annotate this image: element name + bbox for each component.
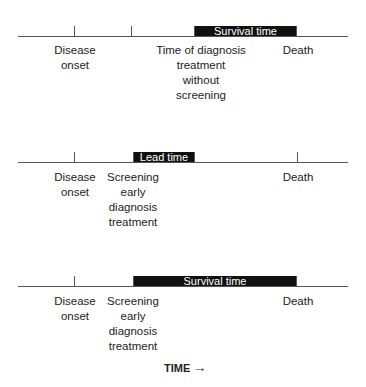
survival-time-bar: Survival time xyxy=(133,276,297,286)
lead-time-label: Lead time xyxy=(140,151,188,163)
lead-time-bar: Lead time xyxy=(133,152,195,162)
screening-label: Screening early diagnosis treatment xyxy=(104,170,162,230)
onset-tick xyxy=(74,26,75,37)
death-label: Death xyxy=(280,170,316,185)
diagnosis-label: Time of diagnosis treatment without scre… xyxy=(148,43,254,103)
death-tick xyxy=(297,152,298,163)
right-arrow-icon: → xyxy=(193,360,206,375)
disease-onset-label: Disease onset xyxy=(50,170,100,200)
survival-time-label: Survival time xyxy=(184,275,247,287)
timeline-axis xyxy=(18,36,348,37)
time-axis-label: TIME → xyxy=(164,360,206,375)
survival-time-label: Survival time xyxy=(214,25,277,37)
death-label: Death xyxy=(280,43,316,58)
onset-tick xyxy=(74,276,75,287)
death-label: Death xyxy=(280,294,316,309)
onset-tick xyxy=(74,152,75,163)
screening-label: Screening early diagnosis treatment xyxy=(104,294,162,354)
time-label-text: TIME xyxy=(164,362,190,374)
tick-marker xyxy=(131,26,132,37)
disease-onset-label: Disease onset xyxy=(50,294,100,324)
survival-time-bar: Survival time xyxy=(194,26,297,36)
disease-onset-label: Disease onset xyxy=(50,43,100,73)
